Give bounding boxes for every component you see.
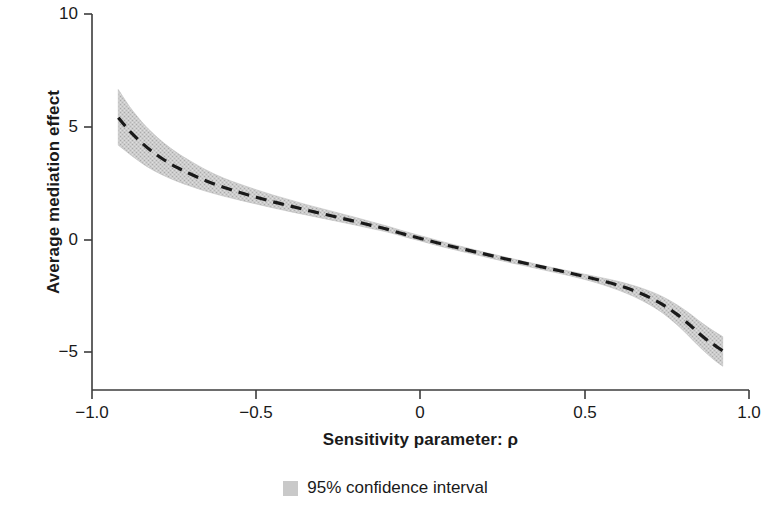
x-tick-label-minus0.5: −0.5: [239, 403, 273, 423]
y-tick-label-minus5: −5: [22, 342, 78, 362]
confidence-interval-band: [118, 89, 722, 366]
y-tick-label-10: 10: [22, 4, 78, 24]
x-tick-label-minus1: −1.0: [75, 403, 109, 423]
x-axis-title: Sensitivity parameter: ρ: [92, 430, 749, 450]
y-tick-label-0: 0: [22, 230, 78, 250]
legend-label-confidence-interval: 95% confidence interval: [307, 478, 488, 498]
x-tick-label-0.5: 0.5: [573, 403, 597, 423]
y-axis-ticks: [84, 14, 92, 352]
y-tick-label-5: 5: [22, 117, 78, 137]
y-axis-title: Average mediation effect: [44, 32, 64, 352]
x-tick-label-1: 1.0: [737, 403, 761, 423]
chart-legend: 95% confidence interval: [0, 478, 771, 498]
sensitivity-analysis-chart: Average mediation effect Sensitivity par…: [0, 0, 771, 508]
average-mediation-effect-line: [118, 118, 722, 351]
x-axis-ticks: [92, 390, 749, 399]
x-tick-label-0: 0: [415, 403, 424, 423]
confidence-interval-swatch-icon: [283, 481, 298, 496]
